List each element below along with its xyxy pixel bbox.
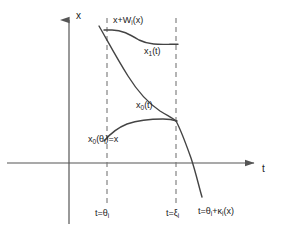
figure-canvas: x t x+Wi(x) x1(t) x0(t) x0(θi)=x t=θi t=… [0, 0, 282, 236]
tick-xi-subscript: i [178, 212, 179, 219]
tick-label-theta: t=θi [95, 209, 109, 218]
tick-theta-main: t=θ [95, 208, 108, 218]
annotation-initial-condition: x0(θi)=x [88, 135, 118, 144]
initial-cond-main: x [88, 134, 93, 144]
initial-cond-tail: )=x [106, 134, 119, 144]
x-axis-label-text: t [262, 163, 265, 174]
x-axis-label: t [262, 164, 265, 174]
tick-label-kappa: t=θi+κi(x) [198, 207, 234, 216]
curve-x0-label-main: x [136, 100, 141, 110]
tick-xi-main: t=ξ [166, 208, 178, 218]
jump-label-tail: (x) [133, 15, 144, 25]
tick-theta-subscript: i [108, 212, 109, 219]
curve-x1 [104, 30, 178, 44]
tick-kappa-main: t=θ [198, 206, 211, 216]
initial-cond-theta: (θ [96, 134, 104, 144]
curve-x1-label-main: x [144, 46, 149, 56]
tick-kappa-mid: +κ [212, 206, 222, 216]
annotation-curve-x0: x0(t) [136, 101, 153, 110]
y-axis-label: x [76, 11, 81, 21]
curve-x1-label-subscript: 1 [149, 50, 153, 57]
y-axis-label-text: x [76, 10, 81, 21]
tick-kappa-tail: (x) [223, 206, 234, 216]
jump-label-main: x+W [113, 15, 131, 25]
tick-label-xi: t=ξi [166, 209, 179, 218]
curve-x0-label-tail: (t) [144, 100, 153, 110]
initial-cond-subscript: 0 [93, 138, 97, 145]
diagram-svg [0, 0, 282, 236]
jump-label-subscript: i [131, 19, 132, 26]
annotation-curve-x1: x1(t) [144, 47, 161, 56]
curve-x1-label-tail: (t) [152, 46, 161, 56]
initial-cond-theta-subscript: i [104, 138, 105, 145]
curve-x0-label-subscript: 0 [141, 104, 145, 111]
annotation-jump-amplitude: x+Wi(x) [113, 16, 143, 25]
